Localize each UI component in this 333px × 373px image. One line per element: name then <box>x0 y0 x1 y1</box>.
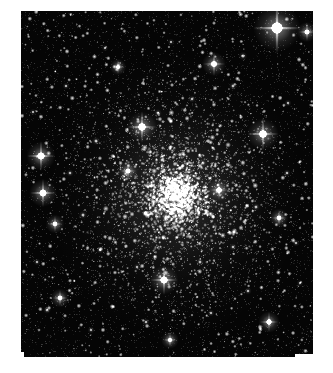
bright-stars-layer <box>21 11 313 357</box>
sky-field-plate <box>21 11 313 357</box>
plate-edge-artifact-right <box>295 354 313 357</box>
plate-edge-artifact-left <box>21 352 24 357</box>
astronomical-figure <box>0 0 333 373</box>
